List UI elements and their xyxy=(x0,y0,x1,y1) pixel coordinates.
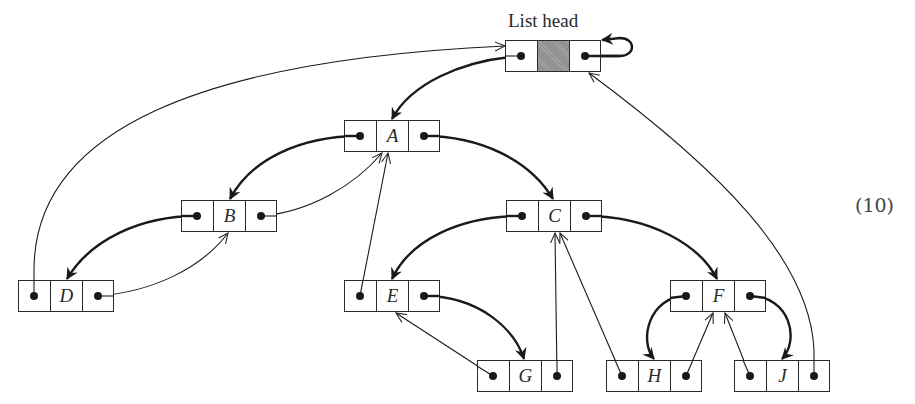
info-cell: J xyxy=(766,361,797,391)
thread-D-to-head xyxy=(34,46,505,296)
list-head-title: List head xyxy=(508,10,578,32)
info-cell: F xyxy=(702,281,733,311)
node-label: A xyxy=(387,125,399,147)
left-link-cell xyxy=(507,201,538,231)
node-D: D xyxy=(18,280,114,312)
node-label: F xyxy=(713,285,725,307)
right-link-cell xyxy=(408,121,439,151)
equation-number: (10) xyxy=(855,194,894,216)
thread-J-to-head xyxy=(589,73,814,376)
edge-C-to-F xyxy=(586,216,717,279)
edge-A-to-B xyxy=(230,136,360,199)
node-label: E xyxy=(387,285,399,307)
edge-A-to-C xyxy=(424,136,553,199)
edges-layer xyxy=(0,0,915,404)
left-link-cell xyxy=(345,281,376,311)
info-cell: D xyxy=(50,281,81,311)
node-G: G xyxy=(477,360,573,392)
right-link-cell xyxy=(245,201,276,231)
left-link-cell xyxy=(345,121,376,151)
threaded-tree-diagram: List head (10) A B C D E F G xyxy=(0,0,915,404)
right-link-cell xyxy=(569,41,600,71)
node-C: C xyxy=(506,200,602,232)
node-E: E xyxy=(344,280,440,312)
thread-B-to-A xyxy=(261,153,382,216)
left-link-cell xyxy=(671,281,702,311)
right-link-cell xyxy=(798,361,829,391)
node-list-head xyxy=(505,40,601,72)
node-B: B xyxy=(181,200,277,232)
left-link-cell xyxy=(735,361,766,391)
thread-G-to-C xyxy=(555,233,557,376)
node-J: J xyxy=(734,360,830,392)
node-A: A xyxy=(344,120,440,152)
edge-head-to-A xyxy=(392,56,521,119)
edge-B-to-D xyxy=(67,216,197,279)
left-link-cell xyxy=(506,41,537,71)
info-cell: C xyxy=(538,201,569,231)
node-label: C xyxy=(548,205,561,227)
thread-D-to-B xyxy=(98,233,228,296)
right-link-cell xyxy=(670,361,701,391)
node-label: H xyxy=(648,365,662,387)
info-cell: E xyxy=(376,281,407,311)
info-cell: G xyxy=(509,361,540,391)
info-cell: H xyxy=(638,361,669,391)
right-link-cell xyxy=(570,201,601,231)
thread-H-to-C xyxy=(560,233,622,376)
shaded-info-cell xyxy=(537,41,568,71)
node-label: B xyxy=(224,205,236,227)
node-label: J xyxy=(778,365,786,387)
node-label: D xyxy=(60,285,74,307)
right-link-cell xyxy=(541,361,572,391)
right-link-cell xyxy=(734,281,765,311)
left-link-cell xyxy=(19,281,50,311)
node-label: G xyxy=(519,365,533,387)
node-H: H xyxy=(606,360,702,392)
left-link-cell xyxy=(478,361,509,391)
left-link-cell xyxy=(182,201,213,231)
info-cell: A xyxy=(376,121,407,151)
node-F: F xyxy=(670,280,766,312)
right-link-cell xyxy=(408,281,439,311)
thread-E-to-A xyxy=(360,153,388,296)
left-link-cell xyxy=(607,361,638,391)
info-cell: B xyxy=(213,201,244,231)
right-link-cell xyxy=(82,281,113,311)
edge-C-to-E xyxy=(392,216,522,279)
